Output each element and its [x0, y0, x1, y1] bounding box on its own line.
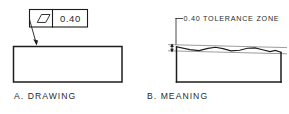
- leader-arrowhead: [33, 39, 38, 45]
- leader-line: [30, 20, 37, 43]
- panel-a-caption: A. DRAWING: [14, 91, 76, 101]
- flatness-symbol: [38, 15, 51, 23]
- dimension-arrow-up: [170, 43, 174, 47]
- drawing-sheet: 0.40 A. DRAWING 0.40 TOLERANCE ZONE: [0, 0, 289, 114]
- technical-drawing-canvas: 0.40 A. DRAWING 0.40 TOLERANCE ZONE: [0, 0, 289, 114]
- upper-tolerance-plane: [168, 45, 287, 48]
- tolerance-zone-note: 0.40 TOLERANCE ZONE: [184, 14, 280, 23]
- panel-a-group: 0.40 A. DRAWING: [14, 10, 123, 101]
- part-outline-rectangle: [14, 47, 123, 83]
- panel-b-caption: B. MEANING: [147, 91, 208, 101]
- tolerance-value: 0.40: [60, 13, 81, 24]
- panel-b-group: 0.40 TOLERANCE ZONE B. MEANING: [147, 14, 287, 100]
